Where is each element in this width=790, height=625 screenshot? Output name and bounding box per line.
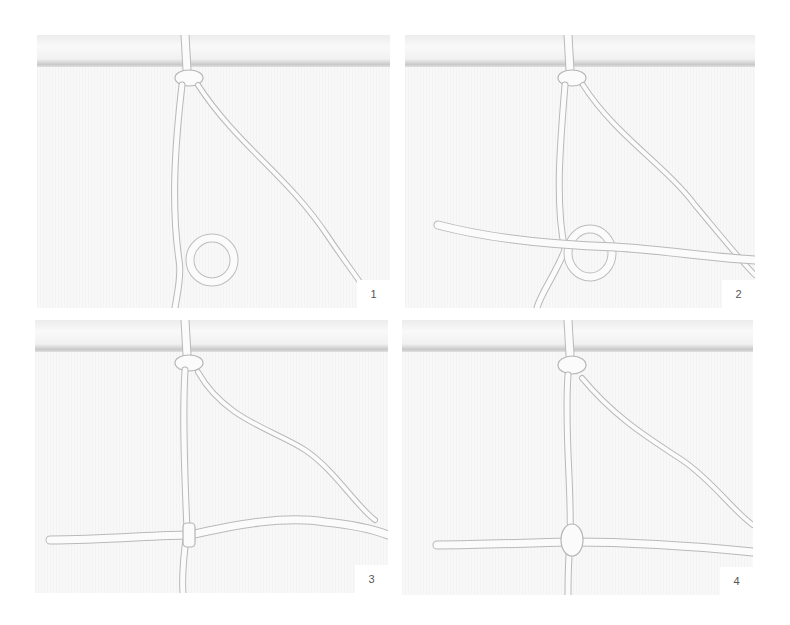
knot-illustration-3 — [35, 320, 388, 593]
knot-illustration-1 — [37, 35, 390, 308]
half-hitch-knot — [561, 524, 583, 556]
knot-illustration-4 — [402, 320, 753, 595]
step-number-label: 3 — [355, 565, 388, 593]
step-photo-4: 4 — [402, 320, 753, 595]
half-hitch-knot — [183, 523, 195, 547]
step-number-label: 4 — [720, 567, 753, 595]
lark-head-knot — [558, 356, 586, 374]
lark-head-knot — [175, 355, 203, 371]
step-photo-2: 2 — [405, 35, 755, 308]
step-number-label: 2 — [722, 280, 755, 308]
dowel-rod — [402, 320, 753, 352]
dowel-rod — [35, 320, 388, 352]
dowel-rod — [405, 35, 755, 67]
step-number-label: 1 — [357, 280, 390, 308]
step-photo-3: 3 — [35, 320, 388, 593]
knot-illustration-2 — [405, 35, 755, 308]
step-photo-1: 1 — [37, 35, 390, 308]
dowel-rod — [37, 35, 390, 67]
